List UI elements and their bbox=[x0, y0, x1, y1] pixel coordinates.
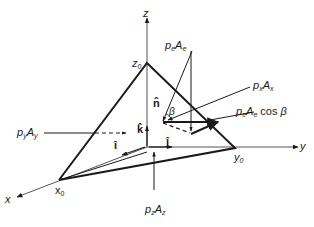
py-ay-label: pyAy bbox=[17, 127, 37, 139]
y-axis-label: y bbox=[300, 141, 306, 152]
normal-dashed-component bbox=[163, 123, 190, 133]
beta-label: β bbox=[169, 107, 175, 117]
pe-ae-line bbox=[163, 51, 192, 121]
k-hat-label: k̂ bbox=[137, 124, 143, 135]
z0-label: z0 bbox=[132, 58, 141, 70]
px-ax-label: pxAx bbox=[253, 80, 273, 92]
pz-az-label: pzAz bbox=[145, 204, 165, 216]
n-hat-label: n̂ bbox=[153, 98, 160, 109]
pe-ae-label: peAe bbox=[165, 40, 186, 52]
x-axis-label: x bbox=[5, 194, 11, 205]
j-hat-label: ĵ bbox=[166, 136, 169, 147]
y0-label: y0 bbox=[234, 152, 243, 164]
i-hat-label: î bbox=[114, 140, 117, 151]
x0-label: x0 bbox=[55, 185, 64, 197]
pe-ae-cos-beta-label: peAe cos β bbox=[236, 106, 287, 118]
x-axis bbox=[17, 147, 147, 197]
z-axis-label: z bbox=[143, 8, 149, 19]
